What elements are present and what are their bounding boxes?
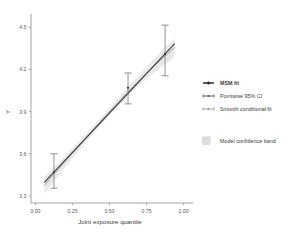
legend-label: Model confidence band xyxy=(220,138,276,144)
chart-canvas: 0.000.250.500.751.00 3.33.63.94.24.5 Joi… xyxy=(0,0,291,234)
x-tick-label: 1.00 xyxy=(179,208,189,214)
x-tick-label: 0.75 xyxy=(142,208,152,214)
legend-swatch-point xyxy=(207,82,210,85)
legend-swatch-point xyxy=(208,95,210,97)
y-axis-title: Y xyxy=(4,110,11,114)
y-tick-label: 3.3 xyxy=(19,193,26,199)
legend-label: Pointwise 95% CI xyxy=(220,93,262,99)
legend-swatch-band xyxy=(202,136,211,145)
x-axis-title: Joint exposure quantile xyxy=(78,218,142,225)
legend-label: Smooth conditional fit xyxy=(220,106,272,112)
x-tick-label: 0.50 xyxy=(104,208,114,214)
x-tick-label: 0.00 xyxy=(30,208,40,214)
y-tick-label: 4.2 xyxy=(19,66,26,72)
y-tick-label: 3.6 xyxy=(19,151,26,157)
y-tick-label: 4.5 xyxy=(19,24,26,30)
legend-label: MSM fit xyxy=(220,80,239,86)
chart-figure: 0.000.250.500.751.00 3.33.63.94.24.5 Joi… xyxy=(0,0,291,234)
y-tick-label: 3.9 xyxy=(19,109,26,115)
figure-background xyxy=(0,0,291,234)
x-tick-label: 0.25 xyxy=(67,208,77,214)
legend-swatch-point xyxy=(208,108,210,110)
